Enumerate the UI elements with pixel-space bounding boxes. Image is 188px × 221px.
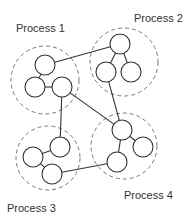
node-p4a — [112, 120, 132, 140]
intra-edge-p4a-p4b — [130, 136, 135, 140]
intra-edge-p3b-p3c — [40, 164, 44, 168]
intra-edge-p2a-p2b — [110, 53, 115, 63]
process-1-label: Process 1 — [16, 22, 65, 34]
inter-edge-p3c-p4c — [62, 164, 107, 172]
node-p3b — [23, 147, 43, 167]
intra-edge-p2a-p2c — [124, 53, 128, 62]
process-3-label: Process 3 — [7, 202, 56, 214]
inter-edge-p1a-p2a — [55, 47, 111, 63]
node-p4c — [107, 152, 127, 172]
node-p1a — [35, 55, 55, 75]
node-p3c — [42, 164, 62, 184]
process-2-label: Process 2 — [134, 12, 183, 24]
node-p3a — [50, 137, 70, 157]
inter-edge-p1c-p3a — [60, 97, 61, 137]
node-p2c — [121, 62, 141, 82]
intra-edge-p3b-p3a — [42, 150, 50, 153]
node-p1c — [52, 77, 72, 97]
inter-edge-p2b-p4a — [109, 82, 120, 121]
intra-edge-p1a-p1b — [39, 74, 41, 78]
node-p2b — [96, 62, 116, 82]
node-p2a — [110, 34, 130, 54]
intra-edge-p4a-p4c — [119, 140, 121, 152]
process-4-label: Process 4 — [124, 189, 173, 201]
node-p1b — [25, 77, 45, 97]
inter-edge-p1c-p4a — [70, 93, 114, 124]
nodes — [23, 34, 153, 184]
node-p4b — [133, 137, 153, 157]
